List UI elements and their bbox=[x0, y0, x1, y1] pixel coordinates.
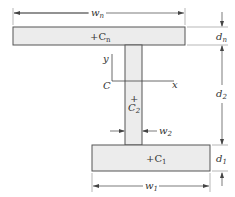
w1-label: w1 bbox=[145, 180, 158, 193]
d2-label: d2 bbox=[216, 88, 227, 101]
x-axis-label: x bbox=[172, 79, 178, 90]
wn-label: wn bbox=[91, 7, 105, 20]
y-axis-label: y bbox=[102, 53, 109, 64]
centroid-origin-label: C bbox=[103, 80, 111, 91]
w2-label: w2 bbox=[159, 125, 173, 138]
dn-label: dn bbox=[216, 31, 227, 44]
d1-label: d1 bbox=[216, 153, 227, 166]
i-beam-diagram: wn dn d2 d1 w1 w2 y x C +Cn + C2 +C1 bbox=[0, 0, 235, 197]
